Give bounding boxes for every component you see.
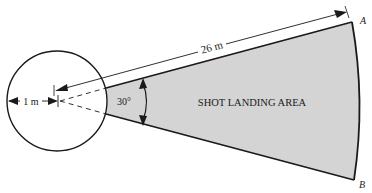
point-b-label: B <box>359 179 365 190</box>
radius-arrow-right <box>48 97 58 105</box>
radius-arrow-left <box>8 97 18 105</box>
point-a-label: A <box>359 15 367 26</box>
radius-label: 1 m <box>23 96 39 107</box>
area-label: SHOT LANDING AREA <box>198 97 307 108</box>
dashed-extension-lower <box>60 101 106 114</box>
arrow-head-left <box>55 84 68 91</box>
angle-label: 30° <box>117 96 131 107</box>
length-label: 26 m <box>199 38 224 55</box>
shot-put-diagram: 26 m 1 m 30° SHOT LANDING AREA A B <box>0 0 372 193</box>
arrow-head-right <box>334 10 347 18</box>
